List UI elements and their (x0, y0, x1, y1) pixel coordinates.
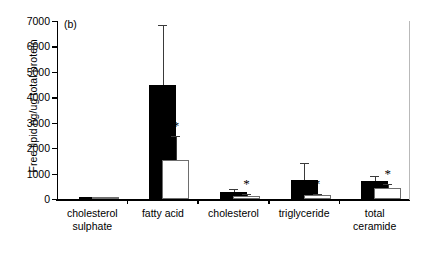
y-tick-mark (52, 46, 57, 47)
x-category-label: cholesterol (208, 207, 259, 220)
bar-white-0 (92, 197, 119, 199)
x-tick-mark (339, 199, 341, 204)
plot-area: 01000200030004000500060007000 **** (57, 21, 410, 199)
error-bar-cap (242, 194, 251, 195)
error-bar-cap (229, 189, 238, 190)
x-tick-mark (197, 199, 199, 204)
x-category-label-line: cholesterol (67, 207, 118, 220)
y-tick-mark (52, 97, 57, 98)
y-tick-mark (52, 72, 57, 73)
error-bar-cap (300, 163, 309, 164)
x-category-label: totalceramide (353, 207, 396, 232)
x-category-label: triglyceride (279, 207, 330, 220)
x-axis-line (56, 199, 410, 201)
y-tick-mark (52, 123, 57, 124)
y-tick-mark (52, 148, 57, 149)
y-tick-label: 7000 (27, 15, 50, 27)
x-category-label-line: fatty acid (142, 207, 184, 220)
bar-white-3 (304, 195, 331, 199)
y-tick-label: 4000 (27, 91, 50, 103)
x-category-label-line: total (353, 207, 396, 220)
y-tick-label: 1000 (27, 168, 50, 180)
error-bar-cap (370, 176, 379, 177)
x-tick-mark (127, 199, 129, 204)
error-bar-stem (163, 25, 164, 85)
x-category-label: cholesterolsulphate (67, 207, 118, 232)
y-tick-mark (52, 199, 57, 200)
x-category-label-line: ceramide (353, 220, 396, 233)
y-axis-line (57, 21, 58, 199)
y-tick-label: 6000 (27, 40, 50, 52)
plot-right-border (409, 21, 410, 200)
y-tick-label: 5000 (27, 66, 50, 78)
error-bar-stem (304, 163, 305, 180)
y-tick-label: 3000 (27, 117, 50, 129)
y-tick-label: 0 (44, 193, 50, 205)
error-bar-cap (383, 184, 392, 185)
error-bar-cap (171, 136, 180, 137)
y-tick-mark (52, 21, 57, 22)
y-tick-mark (52, 174, 57, 175)
bar-white-4 (374, 188, 401, 199)
x-category-label-line: sulphate (67, 220, 118, 233)
significance-asterisk: * (314, 177, 321, 190)
error-bar-stem (176, 136, 177, 160)
x-category-label-line: triglyceride (279, 207, 330, 220)
y-tick-label: 2000 (27, 142, 50, 154)
bar-white-2 (233, 196, 260, 199)
figure-panel-b: Free lipid ng/ug total protein (b) 01000… (0, 0, 435, 266)
x-category-label-line: cholesterol (208, 207, 259, 220)
error-bar-cap (158, 25, 167, 26)
bar-white-1 (162, 160, 189, 199)
x-category-label: fatty acid (142, 207, 184, 220)
significance-asterisk: * (243, 177, 250, 190)
significance-asterisk: * (173, 119, 180, 132)
significance-asterisk: * (384, 167, 391, 180)
error-bar-cap (313, 194, 322, 195)
x-tick-mark (268, 199, 270, 204)
